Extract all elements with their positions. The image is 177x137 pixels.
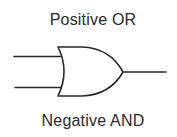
negative-and-label: Negative AND [0,112,177,130]
or-gate-body [58,47,123,96]
